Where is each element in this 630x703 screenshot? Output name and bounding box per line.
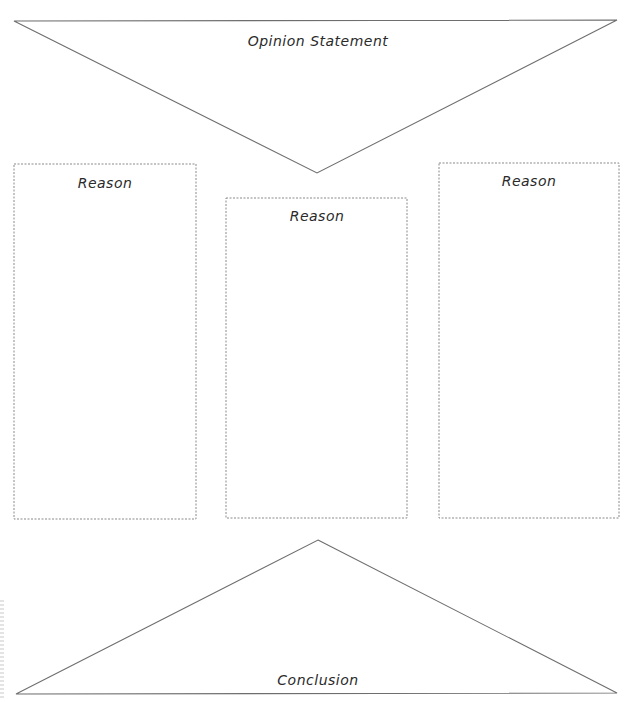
reason-label-middle: Reason	[290, 208, 345, 224]
margin-credit-strip	[0, 600, 4, 700]
reason-label-right: Reason	[502, 173, 557, 189]
conclusion-section: Conclusion	[16, 540, 617, 694]
reason-label-left: Reason	[78, 175, 133, 191]
reason-box-left-area[interactable]	[14, 164, 196, 519]
conclusion-triangle[interactable]	[16, 540, 617, 694]
reason-box-middle: Reason	[226, 198, 407, 518]
opinion-statement-label: Opinion Statement	[248, 33, 389, 49]
reason-box-left: Reason	[14, 164, 196, 519]
opinion-statement-section: Opinion Statement	[14, 20, 617, 173]
reason-box-right-area[interactable]	[439, 163, 619, 518]
reason-box-right: Reason	[439, 163, 619, 518]
reason-box-middle-area[interactable]	[226, 198, 407, 518]
conclusion-label: Conclusion	[277, 672, 358, 688]
graphic-organizer: Opinion Statement Reason Reason Reason C…	[0, 0, 630, 703]
